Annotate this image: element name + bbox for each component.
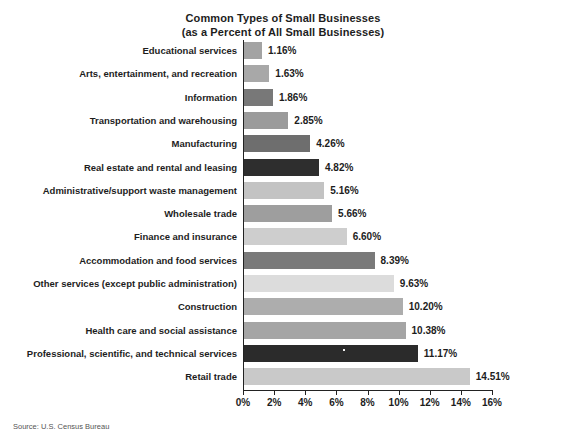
bar xyxy=(244,275,394,292)
category-label: Educational services xyxy=(142,43,237,58)
x-axis-tick xyxy=(399,390,400,395)
category-label: Information xyxy=(185,90,237,105)
x-axis-tick-label: 16% xyxy=(472,397,512,408)
bar-row: Accommodation and food services8.39% xyxy=(0,252,566,269)
category-label: Arts, entertainment, and recreation xyxy=(79,66,237,81)
bar-speck xyxy=(343,349,345,351)
bar-value-label: 11.17% xyxy=(424,346,457,361)
bar-row: Real estate and rental and leasing4.82% xyxy=(0,159,566,176)
bar-row: Manufacturing4.26% xyxy=(0,135,566,152)
bar xyxy=(244,228,347,245)
bar xyxy=(244,205,332,222)
bar-value-label: 6.60% xyxy=(353,229,381,244)
bar xyxy=(244,252,375,269)
category-label: Administrative/support waste management xyxy=(43,183,237,198)
chart-plot-area: Educational services1.16%Arts, entertain… xyxy=(0,40,566,392)
bar-row: Transportation and warehousing2.85% xyxy=(0,112,566,129)
x-axis-tick xyxy=(461,390,462,395)
bar-value-label: 1.63% xyxy=(275,66,303,81)
category-label: Health care and social assistance xyxy=(85,323,237,338)
bar-row: Health care and social assistance10.38% xyxy=(0,322,566,339)
bar-value-label: 4.82% xyxy=(325,160,353,175)
bar-value-label: 10.38% xyxy=(412,323,446,338)
bar-row: Educational services1.16% xyxy=(0,42,566,59)
bar-row: Professional, scientific, and technical … xyxy=(0,345,566,362)
x-axis-tick xyxy=(243,390,244,395)
bar-row: Other services (except public administra… xyxy=(0,275,566,292)
bar-value-label: 1.86% xyxy=(279,90,307,105)
bar-row: Finance and insurance6.60% xyxy=(0,228,566,245)
category-label: Construction xyxy=(178,299,237,314)
bar-value-label: 9.63% xyxy=(400,276,428,291)
category-label: Finance and insurance xyxy=(134,229,237,244)
bar-row: Administrative/support waste management5… xyxy=(0,182,566,199)
bar-row: Wholesale trade5.66% xyxy=(0,205,566,222)
category-label: Accommodation and food services xyxy=(79,253,237,268)
bar-value-label: 8.39% xyxy=(381,253,409,268)
bar-row: Construction10.20% xyxy=(0,298,566,315)
bar xyxy=(244,368,470,385)
x-axis-tick xyxy=(274,390,275,395)
x-axis-tick xyxy=(492,390,493,395)
category-label: Transportation and warehousing xyxy=(90,113,237,128)
bar xyxy=(244,298,403,315)
x-axis-tick xyxy=(336,390,337,395)
x-axis-tick xyxy=(305,390,306,395)
source-note: Source: U.S. Census Bureau xyxy=(13,422,109,431)
category-label: Other services (except public administra… xyxy=(33,276,237,291)
bar xyxy=(244,65,269,82)
bar xyxy=(244,135,310,152)
bar xyxy=(244,345,418,362)
bar-row: Arts, entertainment, and recreation1.63% xyxy=(0,65,566,82)
bar xyxy=(244,42,262,59)
x-axis-tick xyxy=(430,390,431,395)
bar-value-label: 4.26% xyxy=(316,136,344,151)
category-label: Professional, scientific, and technical … xyxy=(27,346,237,361)
bar-value-label: 5.66% xyxy=(338,206,366,221)
chart-title: Common Types of Small Businesses (as a P… xyxy=(0,11,566,39)
x-axis-tick xyxy=(368,390,369,395)
bar-value-label: 14.51% xyxy=(476,369,510,384)
bar-value-label: 5.16% xyxy=(330,183,358,198)
bar xyxy=(244,322,406,339)
bar-value-label: 1.16% xyxy=(268,43,296,58)
bar xyxy=(244,112,288,129)
category-label: Wholesale trade xyxy=(164,206,237,221)
chart-title-line-1: Common Types of Small Businesses xyxy=(0,11,566,25)
bar xyxy=(244,159,319,176)
category-label: Real estate and rental and leasing xyxy=(84,160,237,175)
bar xyxy=(244,89,273,106)
category-label: Retail trade xyxy=(185,369,237,384)
bar-row: Retail trade14.51% xyxy=(0,368,566,385)
chart-title-line-2: (as a Percent of All Small Businesses) xyxy=(0,25,566,39)
bar-row: Information1.86% xyxy=(0,89,566,106)
category-label: Manufacturing xyxy=(172,136,237,151)
bar-value-label: 2.85% xyxy=(294,113,322,128)
bar-value-label: 10.20% xyxy=(409,299,443,314)
bar xyxy=(244,182,324,199)
